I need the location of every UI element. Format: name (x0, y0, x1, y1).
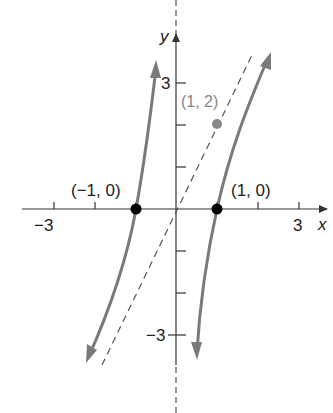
y-tick-label-3: 3 (161, 74, 170, 93)
point-1-0 (212, 204, 223, 215)
arrow-head-icon (86, 344, 97, 363)
oblique-asymptote (102, 55, 252, 365)
curve-left-branch (88, 68, 156, 358)
x-tick-label-neg3: −3 (34, 216, 53, 235)
x-axis-label: x (317, 215, 327, 234)
graph: y x −3 3 3 −3 (−1, 0) (1, 0) (1, 2) (0, 0, 333, 413)
point-label-1-2: (1, 2) (181, 93, 218, 110)
y-axis-label: y (159, 27, 170, 46)
point-neg1-0 (131, 204, 142, 215)
arrow-head-icon (260, 52, 271, 70)
point-label-neg1-0: (−1, 0) (71, 181, 121, 200)
arrow-head-icon (150, 60, 161, 78)
point-label-1-0: (1, 0) (231, 181, 271, 200)
x-tick-label-3: 3 (293, 216, 302, 235)
point-1-2 (212, 119, 222, 129)
y-tick-label-neg3: −3 (146, 326, 165, 345)
arrow-head-icon (191, 342, 202, 360)
graph-canvas: y x −3 3 3 −3 (−1, 0) (1, 0) (1, 2) (0, 0, 333, 413)
